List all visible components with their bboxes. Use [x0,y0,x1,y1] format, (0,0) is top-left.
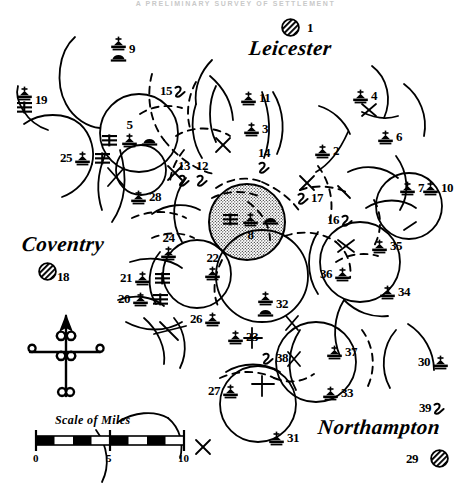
church-symbol [399,181,416,196]
site-symbols-6 [377,130,394,145]
church-symbol [204,266,221,281]
site-marker-11[interactable]: 11 [240,90,270,106]
site-symbols-23 [227,330,244,345]
site-number-6: 6 [396,129,402,145]
symbol-row [222,212,279,227]
site-number-21: 21 [120,270,132,286]
church-symbol [257,291,274,306]
site-marker-35[interactable]: 35 [371,238,402,254]
site-number-10: 10 [441,180,453,196]
church-symbol [326,345,343,360]
site-marker-39[interactable]: 39 [419,400,445,416]
site-number-32: 32 [276,296,288,312]
site-marker-21[interactable]: 21 [120,270,171,286]
hatched-town-circle-29[interactable] [430,449,449,468]
site-marker-3[interactable]: 3 [243,121,268,137]
site-symbols-10 [422,181,439,196]
scale-caption: Scale of Miles [55,414,131,426]
hatched-town-circle-1[interactable] [281,18,300,37]
site-marker-15[interactable]: 15 [160,83,186,99]
field-system-symbol [154,272,171,285]
city-label-leicester[interactable]: Leicester [248,38,333,59]
site-number-39: 39 [419,400,431,416]
site-marker-38[interactable]: 38 [262,350,288,366]
church-symbol [268,431,285,446]
site-marker-33[interactable]: 33 [322,385,353,401]
site-symbols-24: 24 [160,230,177,261]
site-marker-20[interactable]: 20 [118,291,169,307]
site-marker-31[interactable]: 31 [268,430,299,446]
church-symbol [132,292,149,307]
site-number-4: 4 [371,88,377,104]
church-symbol [222,384,239,399]
site-marker-8[interactable]: 8 [222,212,279,243]
site-marker-14[interactable]: 14 [258,145,270,174]
site-symbols-34 [379,285,396,300]
site-number-31: 31 [287,430,299,446]
site-marker-25[interactable]: 25 [60,150,111,166]
site-marker-32[interactable]: 32 [257,291,288,317]
site-marker-19[interactable]: 19 [16,86,47,114]
hatched-town-circle-18[interactable] [38,262,57,281]
site-marker-26[interactable]: 26 [190,311,221,327]
site-marker-6[interactable]: 6 [377,129,402,145]
site-marker-9[interactable]: 9 [110,36,135,62]
site-symbols-36 [334,267,351,282]
city-label-northampton[interactable]: Northampton [317,417,441,438]
site-marker-16[interactable]: 16 [327,212,353,228]
site-marker-28[interactable]: 28 [130,189,161,205]
field-system-symbol [16,101,33,114]
site-marker-10[interactable]: 10 [422,180,453,196]
site-symbols-2 [314,144,331,159]
site-number-35: 35 [390,238,402,254]
symbol-row [258,161,270,174]
site-marker-12[interactable]: 12 [196,158,208,187]
site-marker-24[interactable]: 24 [160,230,177,261]
symbol-row [101,133,158,148]
site-marker-22[interactable]: 22 [204,250,221,281]
site-symbols-31 [268,431,285,446]
field-system-symbol [101,134,118,147]
scale-tick-5: 5 [106,453,112,464]
dome-symbol [141,135,158,146]
site-symbols-27 [222,384,239,399]
church-symbol [110,36,127,51]
church-symbol [160,246,177,261]
site-marker-2[interactable]: 2 [314,143,339,159]
site-symbols-28 [130,190,147,205]
site-number-36: 36 [320,266,332,282]
city-number-29: 29 [406,452,418,465]
site-number-25: 25 [60,150,72,166]
moated-site-symbol [433,402,445,415]
site-marker-27[interactable]: 27 [208,383,239,399]
site-symbols-22: 22 [204,250,221,281]
site-marker-5[interactable]: 5 [101,117,158,148]
church-symbol [371,239,388,254]
site-marker-4[interactable]: 4 [352,88,377,104]
site-marker-7[interactable]: 7 [399,180,424,196]
site-symbols-3 [243,122,260,137]
site-number-17: 17 [311,190,323,206]
site-marker-37[interactable]: 37 [326,344,357,360]
site-symbols-5: 5 [101,117,158,148]
scale-tick-0: 0 [33,453,39,464]
site-marker-34[interactable]: 34 [379,284,410,300]
scale-tick-10: 10 [178,453,189,464]
church-symbol [204,312,221,327]
city-label-coventry[interactable]: Coventry [21,234,105,255]
site-marker-30[interactable]: 30 [418,354,449,370]
site-marker-13[interactable]: 13 [178,158,190,187]
site-symbols-13: 13 [178,158,190,187]
church-symbol [422,181,439,196]
site-marker-23[interactable]: 23 [227,329,258,345]
hatched-circle-icon [281,18,300,37]
symbol-row [204,266,221,281]
site-number-8: 8 [248,227,254,243]
site-symbols-26 [204,312,221,327]
moated-site-symbol [178,174,190,187]
site-marker-36[interactable]: 36 [320,266,351,282]
site-marker-17[interactable]: 17 [297,190,323,206]
church-symbol [379,285,396,300]
moated-site-symbol [297,192,309,205]
church-symbol [432,355,449,370]
